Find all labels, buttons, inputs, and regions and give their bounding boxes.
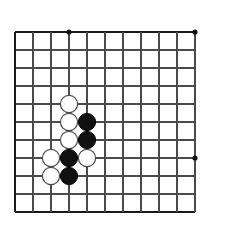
white-stone-icon [42,149,59,166]
white-stone-d7[interactable] [60,131,77,148]
white-stone-icon [42,167,59,184]
black-stone-e6[interactable] [78,113,95,130]
white-stone-icon [78,149,95,166]
white-stone-icon [60,113,77,130]
white-stone-e8[interactable] [78,149,95,166]
go-board-canvas[interactable] [0,0,225,235]
black-stone-d9[interactable] [60,167,77,184]
star-point-right-icon [192,155,197,160]
black-stone-icon [78,131,95,148]
star-point-top-left-icon [66,29,71,34]
white-stone-c9[interactable] [42,167,59,184]
white-stone-c8[interactable] [42,149,59,166]
white-stone-icon [60,95,77,112]
go-board-diagram [0,0,225,235]
black-stone-icon [60,149,77,166]
black-stone-e7[interactable] [78,131,95,148]
black-stone-icon [78,113,95,130]
star-point-top-right-icon [192,29,197,34]
white-stone-icon [60,131,77,148]
board-grid [15,32,195,212]
black-stone-icon [60,167,77,184]
white-stone-d6[interactable] [60,113,77,130]
black-stone-d8[interactable] [60,149,77,166]
white-stone-d5[interactable] [60,95,77,112]
